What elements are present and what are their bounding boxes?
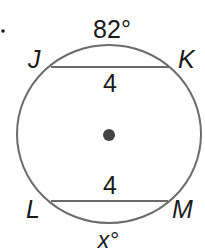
point-label-k: K bbox=[178, 45, 196, 73]
center-point bbox=[103, 129, 115, 141]
arc-lm-measure: x° bbox=[97, 227, 119, 252]
arc-jk-measure: 82° bbox=[93, 15, 131, 43]
point-label-l: L bbox=[26, 195, 40, 223]
point-label-m: M bbox=[172, 195, 193, 223]
circle-diagram: 82° 4 4 x° J K L M bbox=[0, 0, 205, 252]
chord-jk-length: 4 bbox=[103, 69, 117, 97]
bullet-marker bbox=[1, 29, 5, 33]
point-label-j: J bbox=[27, 45, 41, 73]
chord-lm-length: 4 bbox=[103, 171, 117, 199]
